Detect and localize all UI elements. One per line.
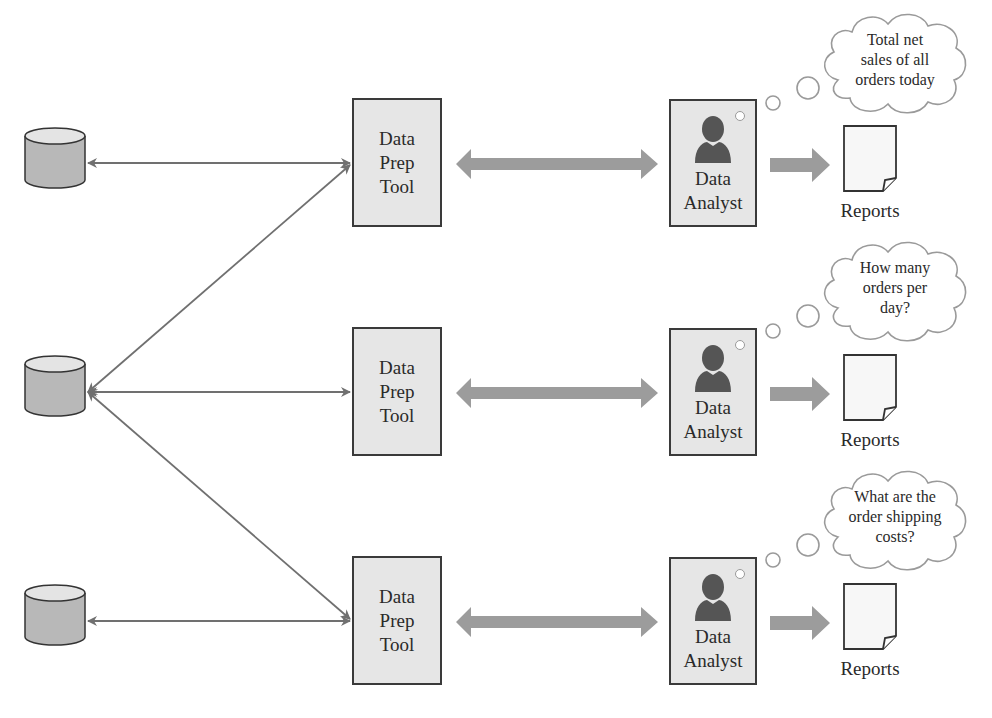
thought-dot-icon (735, 111, 745, 121)
person-icon (693, 573, 733, 623)
thought-text: What are the order shipping costs? (836, 487, 954, 547)
reports-label: Reports (825, 429, 915, 451)
db-connectors (88, 163, 350, 621)
person-icon (693, 344, 733, 394)
thought-dot-icon (735, 340, 745, 350)
database-icon-1 (25, 128, 85, 188)
prep-tool-label: Data Prep Tool (379, 127, 415, 199)
data-analyst-box-1: Data Analyst (669, 99, 757, 227)
database-icon-3 (25, 585, 85, 645)
data-prep-tool-box-2: Data Prep Tool (352, 327, 442, 456)
analyst-label: Data Analyst (683, 396, 742, 444)
connector-layer (0, 0, 992, 718)
output-arrows (770, 148, 830, 640)
person-icon (693, 115, 733, 165)
data-prep-tool-box-3: Data Prep Tool (352, 556, 442, 685)
analyst-label: Data Analyst (683, 625, 742, 673)
data-analyst-box-3: Data Analyst (669, 557, 757, 685)
thought-text: Total net sales of all orders today (840, 30, 950, 90)
data-analyst-box-2: Data Analyst (669, 328, 757, 456)
thought-dot-icon (735, 569, 745, 579)
reports-label: Reports (825, 658, 915, 680)
analyst-label: Data Analyst (683, 167, 742, 215)
bidirectional-arrows (456, 149, 658, 637)
database-icon-2 (25, 356, 85, 416)
thought-text: How many orders per day? (840, 258, 950, 318)
reports-label: Reports (825, 200, 915, 222)
data-prep-tool-box-1: Data Prep Tool (352, 98, 442, 227)
prep-tool-label: Data Prep Tool (379, 356, 415, 428)
prep-tool-label: Data Prep Tool (379, 585, 415, 657)
